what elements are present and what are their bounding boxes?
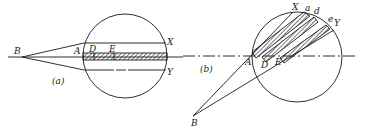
label-e-a: E xyxy=(108,44,116,54)
caption-b: (b) xyxy=(200,64,213,74)
hatched-region-a xyxy=(83,53,167,60)
label-e-b: E xyxy=(274,57,282,67)
label-b-a: B xyxy=(13,46,21,56)
label-a-small-b: a xyxy=(305,3,310,13)
label-x-a: X xyxy=(166,37,174,47)
ray-lower-a xyxy=(22,57,84,70)
label-d-b: D xyxy=(260,60,268,70)
label-y-b: Y xyxy=(334,18,341,28)
label-x-b: X xyxy=(291,2,299,12)
label-a-b: A xyxy=(244,57,252,67)
label-a-a: A xyxy=(73,46,81,56)
label-y-a: Y xyxy=(167,67,174,77)
labels-b: B A D E X a d e Y (b) xyxy=(190,2,341,128)
label-e-small-b: e xyxy=(328,14,333,24)
label-b-b: B xyxy=(190,118,198,128)
label-d-a: D xyxy=(88,44,96,54)
label-d-small-b: d xyxy=(314,6,320,16)
labels-a: B A D E X Y (a) xyxy=(13,37,174,86)
panel-a xyxy=(8,14,183,98)
diagram-canvas: B A D E X Y (a) B A D E X a d e Y (b) xyxy=(0,0,366,132)
caption-a: (a) xyxy=(52,76,65,86)
